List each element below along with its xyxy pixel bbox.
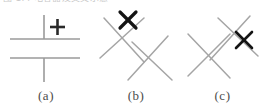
- figure-panel-a: (a): [0, 0, 92, 111]
- figure-root: 图 1.4 电容器及交叉示意 (a): [0, 0, 265, 111]
- stroke-mid-left-ascending: [132, 42, 172, 80]
- panel-c-label: (c): [180, 88, 265, 103]
- figure-panel-c: (c): [180, 0, 265, 111]
- x-mark-icon: [120, 12, 136, 28]
- panel-b-artwork: [92, 6, 180, 84]
- capacitor-symbol-svg: [0, 6, 92, 84]
- capacitor-symbol: [10, 15, 80, 82]
- panel-a-label: (a): [0, 88, 92, 103]
- plus-icon: [50, 19, 65, 35]
- stroke-mid-right-descending: [210, 16, 250, 60]
- crossing-lines-c: [188, 16, 258, 78]
- figure-panel-b: (b): [92, 0, 180, 111]
- stroke-mid-left-ascending: [218, 18, 258, 56]
- panel-b-label: (b): [92, 88, 180, 103]
- panel-a-artwork: [0, 6, 92, 84]
- panel-c-artwork: [180, 6, 265, 84]
- crossing-lines-c-svg: [180, 6, 265, 84]
- crossing-lines-b-svg: [92, 6, 180, 84]
- x-mark-icon: [236, 32, 252, 48]
